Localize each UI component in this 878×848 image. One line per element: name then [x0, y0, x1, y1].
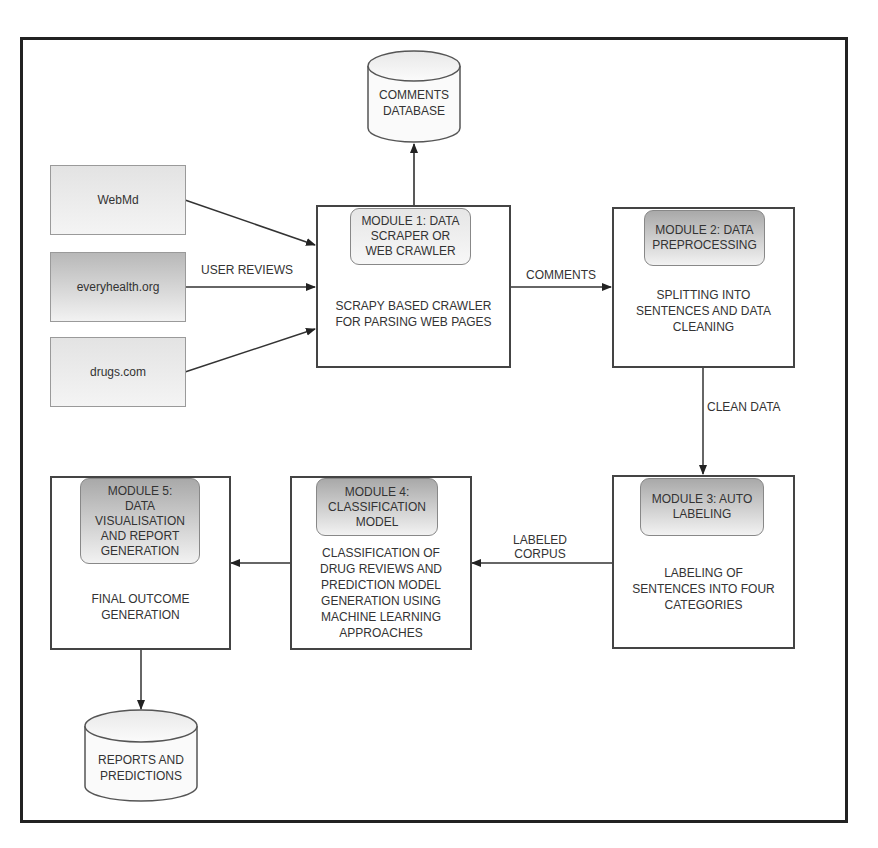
module-3-description-line: CATEGORIES: [612, 597, 795, 613]
module-1-title-line: WEB CRAWLER: [361, 244, 459, 259]
module-2-description-line: CLEANING: [612, 319, 795, 335]
module-1-description-line: SCRAPY BASED CRAWLER: [316, 298, 511, 314]
module-4-description-line: APPROACHES: [290, 625, 472, 641]
module-2-title-line: PREPROCESSING: [652, 238, 757, 253]
reports-database-label-2: PREDICTIONS: [85, 768, 197, 784]
module-5-header: MODULE 5: DATA VISUALISATION AND REPORT …: [80, 478, 200, 564]
source-everyhealth: everyhealth.org: [50, 252, 186, 322]
reports-database-label-1: REPORTS AND: [85, 752, 197, 768]
module-5-title-line: MODULE 5:: [95, 484, 185, 499]
source-webmd-label: WebMd: [97, 193, 138, 207]
module-5-description: FINAL OUTCOME GENERATION: [50, 591, 231, 623]
module-1-description-line: FOR PARSING WEB PAGES: [316, 314, 511, 330]
module-3-description-line: SENTENCES INTO FOUR: [612, 581, 795, 597]
reports-database: REPORTS AND PREDICTIONS: [85, 752, 197, 784]
comments-database-label-2: DATABASE: [368, 103, 460, 119]
module-5-title-line: AND REPORT: [95, 529, 185, 544]
edge-label-labeled-corpus-line: LABELED: [490, 533, 590, 547]
module-3-title-line: MODULE 3: AUTO: [652, 492, 752, 507]
module-3-description: LABELING OF SENTENCES INTO FOUR CATEGORI…: [612, 565, 795, 613]
comments-database: COMMENTS DATABASE: [368, 87, 460, 119]
source-webmd: WebMd: [50, 165, 186, 235]
diagram-frame: [20, 37, 848, 823]
module-4-title-line: MODULE 4:: [328, 485, 426, 500]
module-4-title-line: MODEL: [328, 515, 426, 530]
module-1-title-line: MODULE 1: DATA: [361, 214, 459, 229]
module-3-header: MODULE 3: AUTO LABELING: [640, 478, 764, 536]
edge-label-user-reviews: USER REVIEWS: [192, 263, 302, 277]
module-2-header: MODULE 2: DATA PREPROCESSING: [644, 210, 765, 266]
edge-label-labeled-corpus-line: CORPUS: [490, 547, 590, 561]
module-4-description: CLASSIFICATION OF DRUG REVIEWS AND PREDI…: [290, 545, 472, 641]
module-1-description: SCRAPY BASED CRAWLER FOR PARSING WEB PAG…: [316, 298, 511, 330]
module-4-description-line: GENERATION USING: [290, 593, 472, 609]
module-4-description-line: MACHINE LEARNING: [290, 609, 472, 625]
source-drugs-label: drugs.com: [90, 365, 146, 379]
module-4-description-line: PREDICTION MODEL: [290, 577, 472, 593]
module-2-title-line: MODULE 2: DATA: [652, 223, 757, 238]
module-3-title-line: LABELING: [652, 507, 752, 522]
source-drugs: drugs.com: [50, 337, 186, 407]
module-5-description-line: GENERATION: [50, 607, 231, 623]
module-4-title-line: CLASSIFICATION: [328, 500, 426, 515]
module-4-description-line: DRUG REVIEWS AND: [290, 561, 472, 577]
edge-label-labeled-corpus: LABELED CORPUS: [490, 533, 590, 561]
module-2-description-line: SENTENCES AND DATA: [612, 303, 795, 319]
source-everyhealth-label: everyhealth.org: [77, 280, 160, 294]
module-5-title-line: DATA: [95, 499, 185, 514]
module-2-description-line: SPLITTING INTO: [612, 287, 795, 303]
module-1-title-line: SCRAPER OR: [361, 229, 459, 244]
edge-label-clean-data: CLEAN DATA: [707, 400, 797, 414]
module-4-description-line: CLASSIFICATION OF: [290, 545, 472, 561]
module-5-description-line: FINAL OUTCOME: [50, 591, 231, 607]
module-2-description: SPLITTING INTO SENTENCES AND DATA CLEANI…: [612, 287, 795, 335]
module-1-header: MODULE 1: DATA SCRAPER OR WEB CRAWLER: [350, 208, 471, 265]
module-3-description-line: LABELING OF: [612, 565, 795, 581]
comments-database-label-1: COMMENTS: [368, 87, 460, 103]
module-5-title-line: GENERATION: [95, 544, 185, 559]
edge-label-comments: COMMENTS: [515, 268, 607, 282]
module-5-title-line: VISUALISATION: [95, 514, 185, 529]
module-4-header: MODULE 4: CLASSIFICATION MODEL: [316, 478, 438, 536]
